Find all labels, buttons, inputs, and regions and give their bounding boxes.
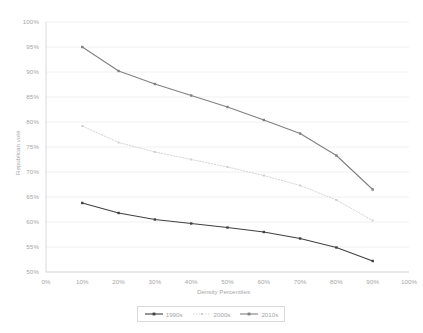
data-point-marker xyxy=(263,119,265,121)
x-tick-label: 0% xyxy=(26,278,66,285)
data-point-marker xyxy=(372,220,374,222)
chart-container: 50%55%60%65%70%75%80%85%90%95%100% 0%10%… xyxy=(0,0,423,333)
series-line xyxy=(82,126,372,221)
y-tick-label: 80% xyxy=(5,118,39,125)
data-point-marker xyxy=(117,70,119,72)
data-point-marker xyxy=(372,188,374,190)
y-tick-label: 50% xyxy=(5,268,39,275)
data-point-marker xyxy=(335,199,337,201)
x-tick-label: 100% xyxy=(389,278,423,285)
data-point-marker xyxy=(190,159,192,161)
data-point-marker xyxy=(154,151,156,153)
data-point-marker xyxy=(81,125,83,127)
data-point-marker xyxy=(335,246,337,248)
data-point-marker xyxy=(263,231,265,233)
legend-swatch-1990s-icon xyxy=(144,310,164,318)
data-point-marker xyxy=(299,185,301,187)
y-tick-label: 75% xyxy=(5,143,39,150)
data-point-marker xyxy=(299,237,301,239)
x-tick-label: 50% xyxy=(208,278,248,285)
y-tick-label: 85% xyxy=(5,93,39,100)
y-tick-label: 55% xyxy=(5,243,39,250)
legend-swatch-2010s-icon xyxy=(239,310,259,318)
data-point-marker xyxy=(372,260,374,262)
x-axis-title: Density Percentiles xyxy=(0,288,423,295)
x-tick-label: 60% xyxy=(244,278,284,285)
x-tick-label: 90% xyxy=(353,278,393,285)
data-point-marker xyxy=(190,94,192,96)
legend-label: 2010s xyxy=(261,311,278,318)
data-point-marker xyxy=(299,132,301,134)
data-point-marker xyxy=(226,226,228,228)
data-point-marker xyxy=(118,142,120,144)
y-tick-label: 70% xyxy=(5,168,39,175)
x-tick-label: 40% xyxy=(171,278,211,285)
series-2000s xyxy=(81,125,373,222)
y-tick-label: 100% xyxy=(5,18,39,25)
legend-label: 2000s xyxy=(214,311,231,318)
legend-item-2000s[interactable]: 2000s xyxy=(192,310,231,318)
chart-legend: 1990s2000s2010s xyxy=(137,306,285,322)
series-line xyxy=(82,47,372,190)
data-point-marker xyxy=(227,166,229,168)
y-tick-label: 90% xyxy=(5,68,39,75)
data-point-marker xyxy=(190,222,192,224)
data-point-marker xyxy=(81,202,83,204)
y-tick-label: 60% xyxy=(5,218,39,225)
data-point-marker xyxy=(226,106,228,108)
data-point-marker xyxy=(154,218,156,220)
data-point-marker xyxy=(154,83,156,85)
data-point-marker xyxy=(335,154,337,156)
y-tick-label: 65% xyxy=(5,193,39,200)
y-axis-title: Republican vote xyxy=(14,131,21,175)
x-tick-label: 10% xyxy=(62,278,102,285)
data-point-marker xyxy=(117,212,119,214)
y-tick-label: 95% xyxy=(5,43,39,50)
series-2010s xyxy=(81,46,374,191)
legend-label: 1990s xyxy=(166,311,183,318)
series-line xyxy=(82,203,372,261)
x-tick-label: 30% xyxy=(135,278,175,285)
x-tick-label: 20% xyxy=(99,278,139,285)
x-tick-label: 80% xyxy=(316,278,356,285)
legend-item-2010s[interactable]: 2010s xyxy=(239,310,278,318)
data-point-marker xyxy=(263,175,265,177)
series-1990s xyxy=(81,202,374,262)
data-point-marker xyxy=(81,46,83,48)
legend-swatch-2000s-icon xyxy=(192,310,212,318)
legend-item-1990s[interactable]: 1990s xyxy=(144,310,183,318)
x-tick-label: 70% xyxy=(280,278,320,285)
